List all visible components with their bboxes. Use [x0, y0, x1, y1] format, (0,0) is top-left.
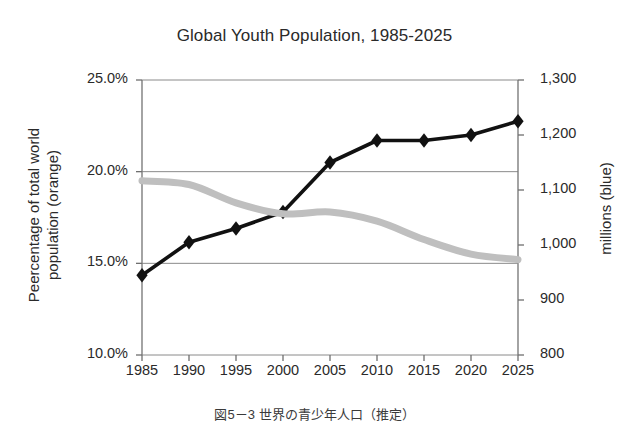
series-marker-diamond: [512, 114, 523, 128]
figure-container: Global Youth Population, 1985-2025 Peerc…: [0, 0, 629, 422]
series-marker-diamond: [136, 268, 147, 282]
series-marker-diamond: [183, 235, 194, 249]
series-marker-diamond: [465, 128, 476, 142]
figure-caption: 図5－3 世界の青少年人口（推定）: [0, 404, 629, 422]
series-marker-diamond: [371, 133, 382, 147]
series-line-percentage: [142, 181, 518, 260]
plot-area: [0, 0, 629, 422]
series-marker-diamond: [230, 221, 241, 235]
series-marker-diamond: [418, 133, 429, 147]
